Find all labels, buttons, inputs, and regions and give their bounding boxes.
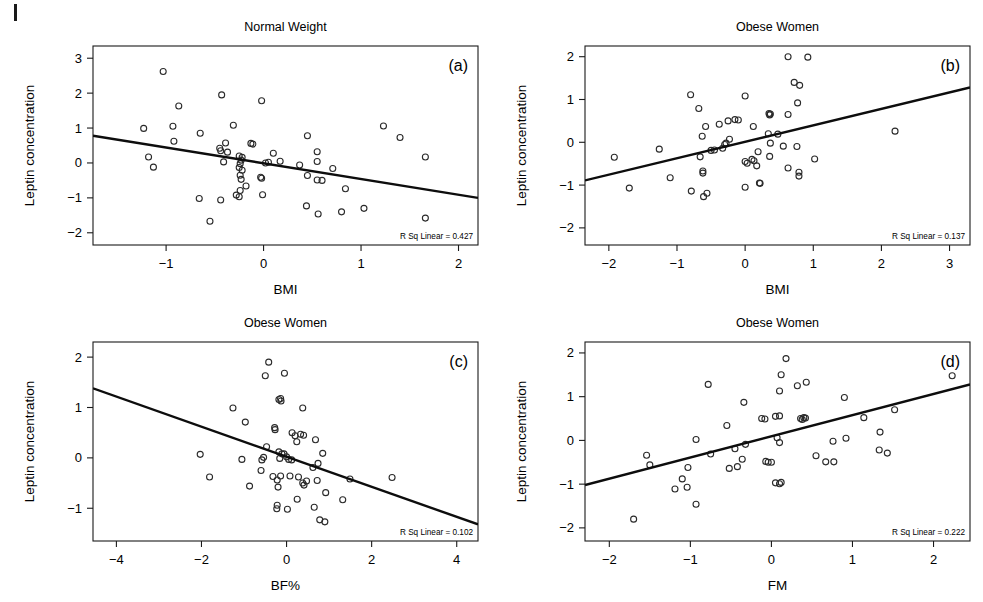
r-squared-annotation: R Sq Linear = 0.427 xyxy=(400,232,474,241)
panel-d: Obese Women−2−1012−2−1012FMLeptin concen… xyxy=(492,310,983,602)
data-point xyxy=(803,379,809,385)
x-tick-label: 0 xyxy=(742,256,749,271)
data-point xyxy=(170,123,176,129)
data-point xyxy=(892,128,898,134)
x-tick-label: 2 xyxy=(878,256,885,271)
data-point xyxy=(323,490,329,496)
data-point xyxy=(221,159,227,165)
x-tick-label: 3 xyxy=(946,256,953,271)
y-tick-label: 0 xyxy=(567,135,574,150)
y-tick-label: 0 xyxy=(75,450,82,465)
y-tick-label: −2 xyxy=(559,520,574,535)
data-point xyxy=(258,467,264,473)
r-squared-annotation: R Sq Linear = 0.222 xyxy=(892,528,966,537)
data-point xyxy=(339,209,345,215)
data-point xyxy=(274,506,280,512)
data-point xyxy=(684,484,690,490)
data-points xyxy=(631,356,956,523)
data-point xyxy=(876,447,882,453)
r-squared-annotation: R Sq Linear = 0.137 xyxy=(892,232,966,241)
y-axis-label: Leptin concentration xyxy=(514,381,529,503)
data-point xyxy=(315,211,321,217)
panel-title: Obese Women xyxy=(736,316,819,330)
y-axis-label: Leptin concentration xyxy=(22,381,37,503)
data-point xyxy=(892,407,898,413)
data-point xyxy=(726,136,732,142)
data-point xyxy=(699,133,705,139)
y-tick-label: 2 xyxy=(567,345,574,360)
data-point xyxy=(796,173,802,179)
y-axis: −2−10123 xyxy=(67,51,93,241)
data-point xyxy=(843,435,849,441)
data-point xyxy=(380,123,386,129)
x-tick-label: 0 xyxy=(260,256,267,271)
y-tick-label: 2 xyxy=(567,49,574,64)
data-point xyxy=(667,175,673,181)
data-point xyxy=(785,165,791,171)
data-point xyxy=(794,383,800,389)
data-point xyxy=(230,405,236,411)
x-tick-label: −2 xyxy=(194,552,209,567)
data-point xyxy=(287,473,293,479)
data-point xyxy=(176,103,182,109)
data-point xyxy=(197,130,203,136)
data-point xyxy=(780,143,786,149)
data-point xyxy=(225,149,231,155)
x-tick-label: 0 xyxy=(768,552,775,567)
panel-letter: (d) xyxy=(940,353,960,370)
data-point xyxy=(785,111,791,117)
data-point xyxy=(812,156,818,162)
x-tick-label: −1 xyxy=(683,552,698,567)
data-point xyxy=(631,516,637,522)
data-point xyxy=(196,196,202,202)
data-point xyxy=(141,125,147,131)
data-point xyxy=(300,405,306,411)
data-point xyxy=(794,144,800,150)
plot-frame xyxy=(585,342,970,541)
x-tick-label: 1 xyxy=(357,256,364,271)
data-point xyxy=(160,68,166,74)
data-point xyxy=(724,423,730,429)
data-point xyxy=(197,451,203,457)
panel-a: Normal Weight−1012−2−10123BMILeptin conc… xyxy=(0,14,491,306)
data-point xyxy=(284,506,290,512)
data-point xyxy=(785,54,791,60)
data-point xyxy=(693,437,699,443)
x-axis-label: BMI xyxy=(273,282,297,297)
data-point xyxy=(230,122,236,128)
data-point xyxy=(884,450,890,456)
data-point xyxy=(422,215,428,221)
panel-title: Normal Weight xyxy=(244,20,327,34)
y-tick-label: −1 xyxy=(559,477,574,492)
data-point xyxy=(397,134,403,140)
data-point xyxy=(297,162,303,168)
panel-a-svg: Normal Weight−1012−2−10123BMILeptin conc… xyxy=(0,14,491,306)
data-point xyxy=(278,473,284,479)
y-axis: −1012 xyxy=(67,350,93,516)
panel-b-svg: Obese Women−2−10123−2−1012BMILeptin conc… xyxy=(492,14,983,306)
x-tick-label: −4 xyxy=(109,552,124,567)
data-point xyxy=(274,477,280,483)
data-point xyxy=(777,440,783,446)
data-point xyxy=(742,184,748,190)
data-points xyxy=(141,68,429,224)
data-point xyxy=(778,372,784,378)
data-point xyxy=(242,419,248,425)
data-point xyxy=(218,197,224,203)
data-point xyxy=(697,154,703,160)
data-point xyxy=(275,484,281,490)
data-point xyxy=(243,183,249,189)
data-point xyxy=(294,496,300,502)
data-point xyxy=(797,82,803,88)
data-point xyxy=(320,450,326,456)
y-tick-label: 0 xyxy=(75,155,82,170)
data-point xyxy=(704,190,710,196)
data-point xyxy=(679,476,685,482)
data-point xyxy=(361,205,367,211)
regression-line xyxy=(585,384,970,485)
data-point xyxy=(294,439,300,445)
x-axis-label: BF% xyxy=(271,578,300,593)
y-tick-label: −1 xyxy=(559,178,574,193)
y-tick-label: 2 xyxy=(75,86,82,101)
y-axis-label: Leptin concentration xyxy=(22,85,37,207)
